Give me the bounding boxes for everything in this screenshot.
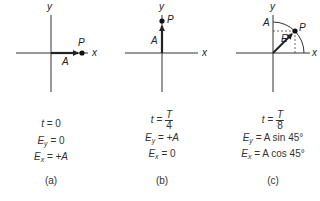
panel-a-ey: Ey = 0 bbox=[37, 136, 64, 146]
panel-c-e-label: E bbox=[281, 33, 288, 44]
panel-a-point-p bbox=[79, 50, 84, 55]
panel-c-point-p bbox=[292, 28, 297, 33]
panel-c-p-label: P bbox=[299, 22, 306, 33]
panel-b-time: t = T4 bbox=[151, 110, 173, 131]
panel-c-y-label: y bbox=[269, 1, 276, 12]
panel-a-caption: (a) bbox=[45, 175, 57, 186]
panel-b-p-label: P bbox=[167, 14, 174, 25]
panel-c-figure: y x P A E bbox=[236, 1, 318, 92]
diagram-canvas: y x P A y x P A y x P A E bbox=[0, 0, 320, 201]
panel-a-a-label: A bbox=[61, 56, 69, 67]
panel-c-a-label: A bbox=[262, 17, 270, 28]
panel-b-ex: Ex = 0 bbox=[148, 149, 175, 159]
panel-c-caption: (c) bbox=[267, 175, 279, 186]
panel-b-caption: (b) bbox=[156, 175, 168, 186]
panel-c-x-label: x bbox=[311, 47, 318, 58]
panel-b-ey: Ey = +A bbox=[145, 133, 179, 143]
panel-a-figure: y x P A bbox=[16, 1, 98, 92]
panel-a-ex: Ex = +A bbox=[34, 152, 68, 162]
panel-b-point-p bbox=[159, 18, 164, 23]
panel-a-time: t = 0 bbox=[41, 119, 61, 129]
panel-a-p-label: P bbox=[78, 37, 85, 48]
panel-a-x-label: x bbox=[91, 47, 98, 58]
panel-b-x-label: x bbox=[201, 47, 208, 58]
panel-c-ey: Ey = A sin 45° bbox=[243, 133, 304, 143]
panel-a-y-label: y bbox=[46, 1, 53, 12]
panel-c-time: t = T8 bbox=[262, 110, 284, 131]
panel-b-figure: y x P A bbox=[125, 1, 208, 92]
panel-b-a-label: A bbox=[150, 35, 158, 46]
panel-b-y-label: y bbox=[158, 1, 165, 12]
panel-c-ex: Ex = A cos 45° bbox=[241, 149, 304, 159]
